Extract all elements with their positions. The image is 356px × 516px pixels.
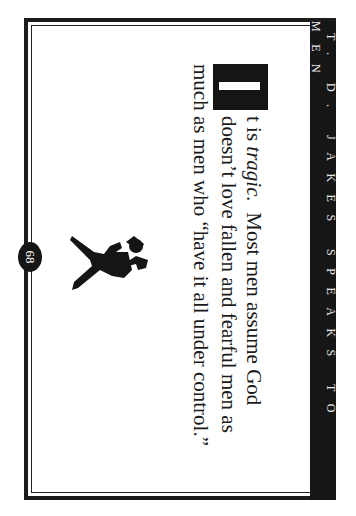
running-title: T. D. JAKES SPEAKS TO MEN (308, 21, 338, 500)
text-line-1: t is tragic. Most men assume God (243, 116, 264, 405)
line1-rest: Most men assume God (242, 202, 266, 406)
drop-cap-letter-i (219, 82, 260, 90)
running-header: T. D. JAKES SPEAKS TO MEN (310, 21, 336, 500)
book-page: T. D. JAKES SPEAKS TO MEN t is tragic. M… (24, 18, 336, 500)
page-number-badge: 68 (18, 242, 42, 272)
text-line-2: doesn’t love fallen and fearful men as (218, 116, 239, 433)
page-number: 68 (23, 251, 38, 264)
line1-italic: tragic. (242, 146, 266, 201)
running-man-silhouette-icon (68, 230, 150, 292)
drop-cap (213, 64, 268, 110)
text-line-3: much as men who “have it all under contr… (190, 64, 211, 446)
line1-prefix: t is (242, 116, 266, 146)
